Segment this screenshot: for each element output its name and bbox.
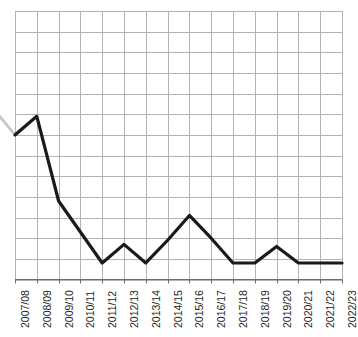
data-line-series-1 (15, 116, 342, 263)
prior-period-line-segment (0, 116, 15, 135)
horizontal-gridlines (15, 12, 342, 281)
vertical-gridlines (16, 11, 343, 280)
